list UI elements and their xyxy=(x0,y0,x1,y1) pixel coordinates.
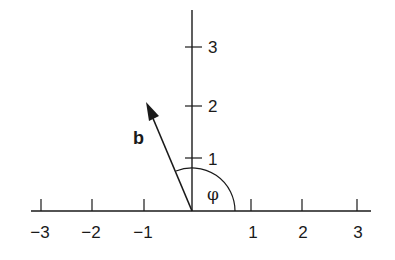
vector-b-arrowhead-icon xyxy=(146,102,159,121)
x-tick-label: 1 xyxy=(248,223,257,242)
x-axis-ticks xyxy=(41,199,357,211)
vector-label: b xyxy=(133,128,144,148)
y-tick-label: 1 xyxy=(208,150,217,169)
y-tick-label: 3 xyxy=(208,38,217,57)
angle-arc xyxy=(176,168,235,211)
x-tick-label: 3 xyxy=(353,223,362,242)
vector-angle-diagram: −3 −2 −1 1 2 3 1 2 3 b φ xyxy=(0,0,395,260)
x-axis-tick-labels: −3 −2 −1 1 2 3 xyxy=(30,223,362,242)
y-tick-label: 2 xyxy=(208,97,217,116)
vector-b-shaft xyxy=(152,116,192,211)
x-tick-label: 2 xyxy=(298,223,307,242)
x-tick-label: −3 xyxy=(30,223,49,242)
y-axis-tick-labels: 1 2 3 xyxy=(208,38,217,169)
angle-label: φ xyxy=(207,184,219,204)
x-tick-label: −1 xyxy=(133,223,152,242)
x-tick-label: −2 xyxy=(81,223,100,242)
y-axis-ticks xyxy=(185,47,202,158)
